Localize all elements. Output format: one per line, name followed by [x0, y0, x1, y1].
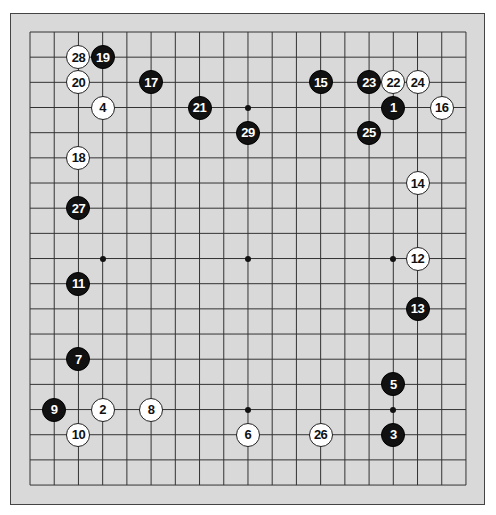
white-stone-move-28: 28: [66, 45, 90, 69]
black-stone-move-25: 25: [357, 121, 381, 145]
star-point: [390, 407, 396, 413]
white-stone-move-16: 16: [430, 96, 454, 120]
black-stone-move-23: 23: [357, 70, 381, 94]
star-point: [245, 407, 251, 413]
star-point: [245, 105, 251, 111]
white-stone-move-20: 20: [66, 70, 90, 94]
black-stone-move-27: 27: [66, 196, 90, 220]
white-stone-move-10: 10: [66, 423, 90, 447]
white-stone-move-2: 2: [91, 398, 115, 422]
white-stone-move-18: 18: [66, 146, 90, 170]
star-point: [390, 256, 396, 262]
black-stone-move-1: 1: [381, 96, 405, 120]
black-stone-move-21: 21: [188, 96, 212, 120]
black-stone-move-13: 13: [406, 297, 430, 321]
white-stone-move-6: 6: [236, 423, 260, 447]
white-stone-move-26: 26: [309, 423, 333, 447]
white-stone-move-22: 22: [381, 70, 405, 94]
black-stone-move-29: 29: [236, 121, 260, 145]
star-point: [245, 256, 251, 262]
black-stone-move-11: 11: [66, 272, 90, 296]
white-stone-move-8: 8: [139, 398, 163, 422]
white-stone-move-24: 24: [406, 70, 430, 94]
black-stone-move-15: 15: [309, 70, 333, 94]
star-point: [100, 256, 106, 262]
white-stone-move-4: 4: [91, 96, 115, 120]
black-stone-move-19: 19: [91, 45, 115, 69]
black-stone-move-17: 17: [139, 70, 163, 94]
white-stone-move-14: 14: [406, 171, 430, 195]
black-stone-move-9: 9: [42, 398, 66, 422]
white-stone-move-12: 12: [406, 247, 430, 271]
black-stone-move-7: 7: [66, 347, 90, 371]
black-stone-move-3: 3: [381, 423, 405, 447]
black-stone-move-5: 5: [381, 372, 405, 396]
